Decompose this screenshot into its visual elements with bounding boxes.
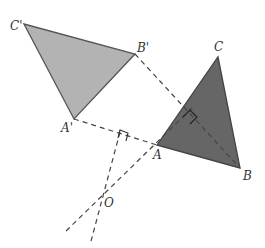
label-c-prime: C' <box>10 19 22 33</box>
bisector-aa-prime <box>90 132 120 245</box>
label-b-prime: B' <box>136 41 149 55</box>
label-a-prime: A' <box>60 121 73 135</box>
label-o: O <box>104 196 114 210</box>
segment-a-prime-a <box>74 119 157 145</box>
triangle-original <box>157 57 240 168</box>
triangle-image <box>24 24 135 119</box>
label-b: B <box>242 169 252 183</box>
label-a: A <box>152 148 162 162</box>
geometry-diagram: C' B' A' C B A O <box>0 0 265 248</box>
label-c: C <box>214 40 223 54</box>
